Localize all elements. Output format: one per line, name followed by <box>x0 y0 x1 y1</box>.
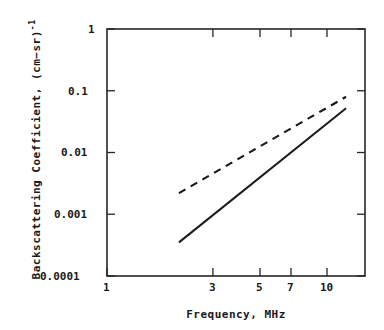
chart-figure: 1 0.1 0.01 0.001 0.0001 1 3 5 7 10 Backs… <box>0 0 384 330</box>
x-axis-title: Frequency, MHz <box>186 308 286 321</box>
series-line-solid <box>179 108 346 242</box>
x-tick-label-10: 10 <box>320 281 333 294</box>
y-axis-title-wrap: Backscattering Coefficient, (cm−sr)-1 <box>25 20 44 280</box>
series-line-dashed <box>179 97 346 193</box>
y-tick-label-0.001: 0.001 <box>54 208 87 221</box>
x-axis-ticks-top <box>213 29 327 37</box>
x-tick-label-7: 7 <box>287 281 294 294</box>
x-axis-ticks-bottom <box>107 268 327 276</box>
y-tick-label-0.01: 0.01 <box>61 146 88 159</box>
x-axis-title-wrap: Frequency, MHz <box>107 303 365 322</box>
y-axis-title: Backscattering Coefficient, (cm−sr)-1 <box>30 20 43 280</box>
y-tick-label-0.1: 0.1 <box>68 85 88 98</box>
x-tick-label-3: 3 <box>209 281 216 294</box>
y-axis-ticks-right <box>357 29 365 276</box>
y-axis-title-text: Backscattering Coefficient, (cm−sr) <box>30 30 43 279</box>
x-tick-label-5: 5 <box>256 281 263 294</box>
y-tick-label-1: 1 <box>88 23 95 36</box>
y-axis-title-exponent: -1 <box>28 20 37 31</box>
y-axis-ticks-left <box>107 29 115 276</box>
x-tick-label-1: 1 <box>103 281 110 294</box>
y-tick-label-0.0001: 0.0001 <box>40 270 80 283</box>
plot-frame <box>107 29 365 276</box>
